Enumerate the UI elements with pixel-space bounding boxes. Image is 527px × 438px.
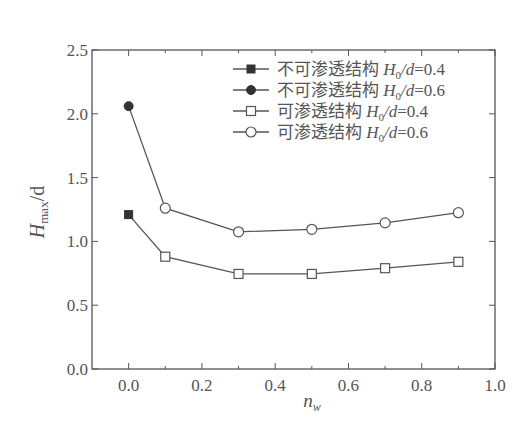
y-axis-label: Hmax/d (26, 186, 51, 239)
series-open-circle (160, 203, 463, 237)
x-tick-label: 0.4 (265, 376, 287, 395)
x-tick-label: 0.2 (191, 376, 212, 395)
y-tick-label: 2.5 (67, 41, 88, 60)
legend-item: 可渗透结构 H0/d=0.6 (233, 123, 428, 144)
y-tick-label: 0.0 (67, 360, 88, 379)
legend-label: 可渗透结构 H0/d=0.6 (277, 123, 428, 144)
legend-item: 可渗透结构 H0/d=0.4 (233, 102, 429, 123)
legend-label: 可渗透结构 H0/d=0.4 (277, 102, 429, 123)
x-tick-label: 0.8 (411, 376, 432, 395)
legend: 不可渗透结构 H0/d=0.4不可渗透结构 H0/d=0.6可渗透结构 H0/d… (233, 60, 446, 144)
y-tick-label: 1.0 (67, 232, 88, 251)
y-tick-label: 2.0 (67, 105, 88, 124)
x-axis-label: nw (303, 390, 321, 414)
legend-item: 不可渗透结构 H0/d=0.6 (233, 81, 445, 102)
series-filled-square (125, 211, 133, 219)
legend-label: 不可渗透结构 H0/d=0.6 (277, 81, 445, 102)
legend-label: 不可渗透结构 H0/d=0.4 (277, 60, 446, 81)
y-tick-label: 1.5 (67, 169, 88, 188)
series-filled-circle (124, 102, 133, 111)
x-tick-label: 1.0 (484, 376, 505, 395)
x-tick-label: 0.6 (338, 376, 359, 395)
line-chart: 0.00.20.40.60.81.00.00.51.01.52.02.5 不可渗… (0, 0, 527, 438)
x-tick-label: 0.0 (118, 376, 139, 395)
y-tick-label: 0.5 (67, 296, 88, 315)
legend-item: 不可渗透结构 H0/d=0.4 (233, 60, 446, 81)
